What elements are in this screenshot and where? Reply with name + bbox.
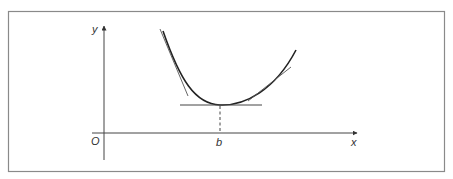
diagram-figure: y x O b bbox=[0, 0, 453, 179]
figure-frame bbox=[9, 12, 445, 172]
origin-label: O bbox=[91, 135, 100, 147]
b-label: b bbox=[216, 136, 222, 148]
right-tangent-line bbox=[248, 67, 291, 101]
x-axis-label: x bbox=[350, 136, 357, 148]
left-tangent-line bbox=[160, 29, 188, 96]
y-axis-label: y bbox=[91, 23, 99, 35]
convex-curve bbox=[163, 31, 296, 105]
